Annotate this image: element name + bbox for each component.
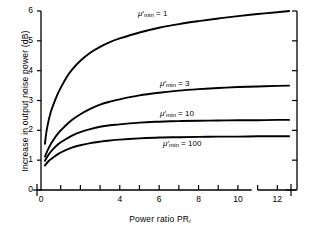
- figure-container: Increase in output noise power (dB) Powe…: [0, 0, 319, 229]
- x-axis-title: Power ratio PRi: [60, 208, 260, 226]
- curve-label-subscript: min: [166, 111, 176, 118]
- curve-label-subscript: min: [144, 11, 154, 18]
- x-tick-label: 8: [189, 194, 209, 204]
- curve-label-1: μ′min = 3: [160, 79, 189, 88]
- curve-label-3: μ′min = 100: [163, 139, 201, 148]
- x-tick-label: 4: [110, 194, 130, 204]
- y-tick-label: 5: [15, 35, 33, 45]
- curve-label-subscript: min: [169, 141, 179, 148]
- y-tick-label: 1: [15, 154, 33, 164]
- x-tick-label: 0: [31, 194, 51, 204]
- x-tick-label: 6: [149, 194, 169, 204]
- curve-label-equals: = 10: [176, 109, 194, 118]
- curve-label-equals: = 1: [154, 9, 168, 18]
- x-tick-label: 10: [228, 194, 248, 204]
- y-tick-label: 0: [15, 184, 33, 194]
- curve-label-equals: = 3: [176, 79, 190, 88]
- y-tick-label: 4: [15, 65, 33, 75]
- y-tick-label: 3: [15, 95, 33, 105]
- curve-label-0: μ′min = 1: [138, 9, 167, 18]
- curve-mu-min-1: [45, 11, 289, 144]
- x-axis-title-main: Power ratio PR: [129, 214, 189, 224]
- x-axis-title-subscript: i: [189, 217, 191, 224]
- curve-label-subscript: min: [166, 81, 176, 88]
- y-tick-label: 2: [15, 124, 33, 134]
- curve-label-2: μ′min = 10: [160, 109, 194, 118]
- curve-label-equals: = 100: [179, 139, 201, 148]
- x-tick-label: 12: [267, 194, 287, 204]
- x-axis-title-text: Power ratio PRi: [129, 214, 191, 224]
- y-tick-label: 6: [15, 5, 33, 15]
